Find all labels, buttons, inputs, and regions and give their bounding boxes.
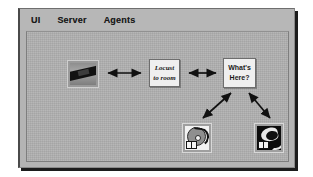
arrow-layer — [27, 32, 288, 161]
node-scene-photo[interactable] — [67, 60, 99, 88]
node-whats-here-line1: What's — [228, 63, 251, 73]
application-window: UI Server Agents — [18, 8, 295, 168]
menu-bar: UI Server Agents — [20, 9, 294, 30]
diagram-canvas[interactable]: Locust to room What's Here? — [26, 31, 289, 162]
node-locate-room[interactable]: Locust to room — [149, 59, 180, 87]
node-agent-dark[interactable] — [254, 123, 284, 153]
curve-agent-icon — [257, 126, 281, 150]
menu-ui[interactable]: UI — [31, 15, 40, 25]
disc-agent-icon — [185, 126, 209, 150]
node-locate-room-line2: to room — [153, 73, 175, 83]
tile-right — [192, 142, 196, 148]
tile-left — [187, 142, 191, 148]
node-whats-here[interactable]: What's Here? — [223, 58, 256, 88]
tiles-icon — [258, 141, 269, 149]
edge-whatshere-to-agent-dark — [249, 93, 270, 118]
node-locate-room-line1: Locust — [155, 63, 174, 73]
photo-thumbnail-icon — [70, 63, 96, 85]
screenshot-root: UI Server Agents — [0, 0, 313, 177]
menu-server[interactable]: Server — [57, 15, 86, 25]
edge-whatshere-to-agent-light — [203, 93, 231, 118]
curve-tail-icon — [272, 135, 281, 150]
tile-left — [259, 142, 263, 148]
diagram-arrows — [27, 32, 289, 162]
node-whats-here-line2: Here? — [230, 73, 250, 83]
menu-agents[interactable]: Agents — [104, 15, 136, 25]
node-agent-light[interactable] — [182, 123, 212, 153]
tile-right — [264, 142, 268, 148]
tiles-icon — [186, 141, 197, 149]
